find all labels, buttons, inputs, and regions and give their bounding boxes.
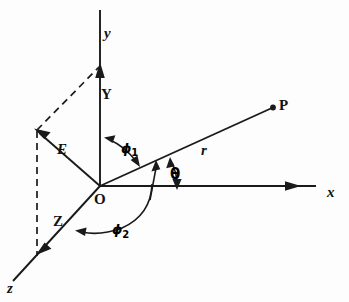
z-axis-arrowhead-icon (36, 242, 51, 255)
y-axis-label: y (102, 25, 111, 41)
x-axis-arrowhead-icon (285, 181, 301, 191)
theta-label: θ (170, 165, 180, 183)
theta-symbol: θ (170, 165, 180, 183)
phi1-label: ϕ1 (121, 141, 138, 158)
z-component-label: Z (53, 213, 63, 229)
phi2-label: ϕ2 (112, 222, 129, 240)
x-axis-label: x (326, 184, 335, 200)
figure-canvas: y x z r E O P Y Z ϕ1 θ ϕ2 (0, 0, 349, 302)
z-axis-label: z (6, 280, 13, 296)
phi2-symbol: ϕ (112, 222, 122, 237)
origin-label: O (94, 191, 106, 207)
phi2-subscript: 2 (122, 229, 129, 240)
E-vector-label: E (56, 141, 67, 157)
r-vector-label: r (201, 142, 207, 158)
point-p-label: P (279, 97, 288, 113)
point-p-dot (270, 105, 276, 111)
coordinate-diagram: y x z r E O P Y Z ϕ1 θ ϕ2 (0, 0, 349, 302)
dashed-e-to-y-tip-line (37, 67, 99, 130)
phi2-arc-arrowhead-icon (75, 227, 87, 236)
E-vector-line (40, 134, 100, 187)
phi1-subscript: 1 (131, 147, 138, 158)
y-component-label: Y (101, 86, 112, 102)
phi1-symbol: ϕ (121, 141, 131, 156)
